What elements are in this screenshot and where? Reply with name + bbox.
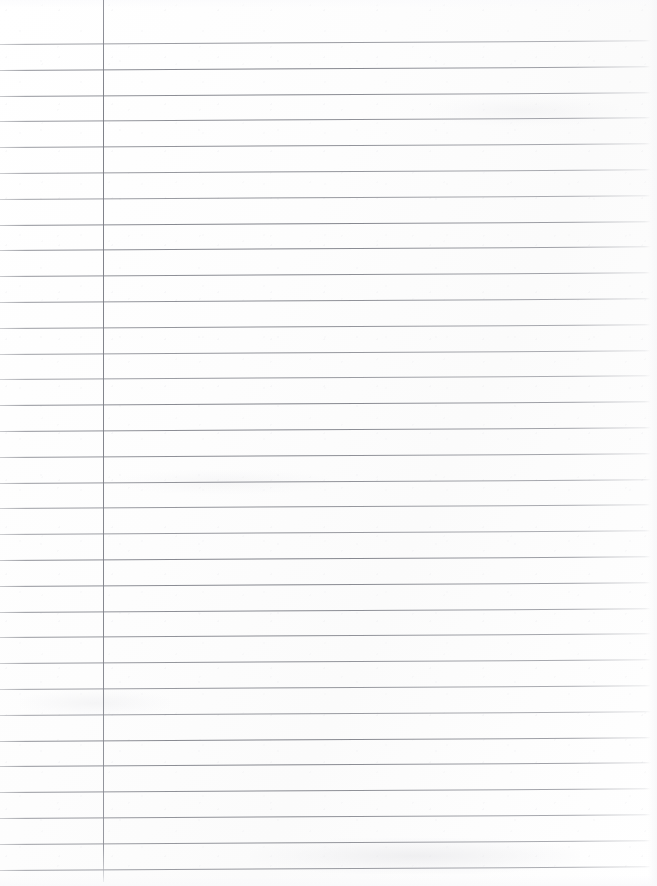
paper-surface (0, 0, 657, 886)
margin-rule-line (103, 0, 104, 882)
scanned-page (0, 0, 657, 886)
